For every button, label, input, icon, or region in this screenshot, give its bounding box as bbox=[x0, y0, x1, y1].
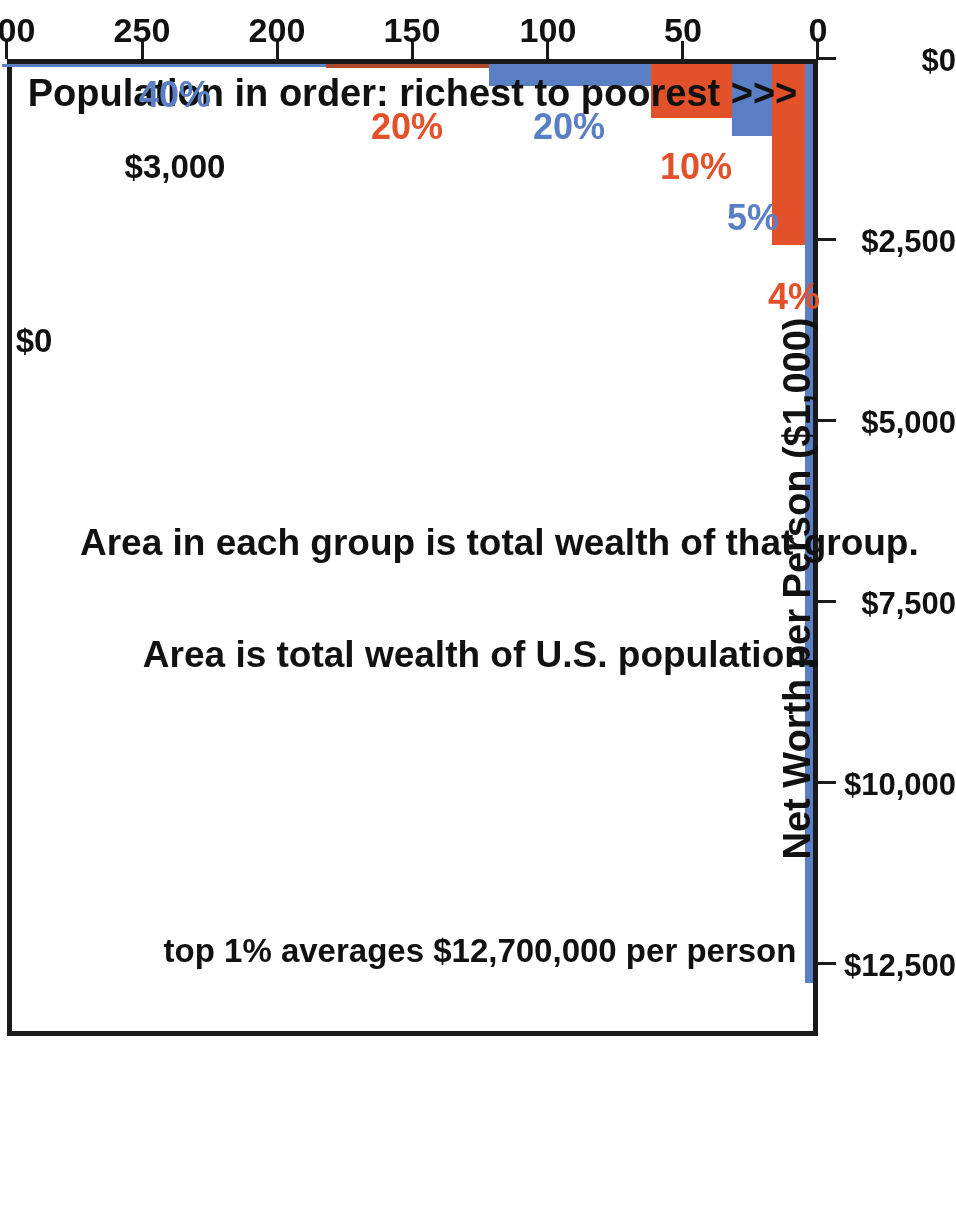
y-tick-label-3: $7,500 bbox=[844, 586, 956, 622]
y-tick-3 bbox=[818, 600, 836, 603]
bar-percent-label-1: 4% bbox=[749, 276, 839, 318]
y-tick-label-2: $5,000 bbox=[844, 405, 956, 441]
bar-percent-label-5: 20% bbox=[362, 106, 452, 148]
x-tick-label-300: 300 bbox=[0, 11, 52, 50]
top-one-percent-note: top 1% averages $12,700,000 per person bbox=[80, 932, 880, 970]
remainder-value: $0 bbox=[0, 322, 124, 360]
y-tick-2 bbox=[818, 419, 836, 422]
bar-20pct-5 bbox=[326, 64, 488, 68]
y-tick-label-0: $0 bbox=[844, 43, 956, 79]
rotated-figure-wrapper: 050100150200250300 Population in order: … bbox=[0, 0, 956, 1210]
bar-percent-label-4: 20% bbox=[524, 106, 614, 148]
y-axis-title: Net Worth per Person ($1,000) bbox=[776, 100, 819, 1077]
area-total-wealth-note: Area is total wealth of U.S. population. bbox=[80, 634, 880, 676]
y-tick-1 bbox=[818, 238, 836, 241]
y-tick-4 bbox=[818, 781, 836, 784]
y-tick-label-4: $10,000 bbox=[844, 767, 956, 803]
y-tick-0 bbox=[818, 58, 836, 61]
bar-40pct-6 bbox=[2, 64, 326, 67]
area-group-wealth-note: Area in each group is total wealth of th… bbox=[80, 522, 880, 564]
forty-percent-value: $3,000 bbox=[85, 148, 265, 186]
y-tick-label-1: $2,500 bbox=[844, 224, 956, 260]
x-tick-label-100: 100 bbox=[503, 11, 593, 50]
bar-percent-label-6: 40% bbox=[130, 74, 220, 116]
bar-percent-label-2: 5% bbox=[708, 197, 798, 239]
x-tick-label-50: 50 bbox=[638, 11, 728, 50]
chart-figure: 050100150200250300 Population in order: … bbox=[0, 0, 956, 1210]
x-tick-label-150: 150 bbox=[368, 11, 458, 50]
x-tick-label-200: 200 bbox=[232, 11, 322, 50]
bar-percent-label-3: 10% bbox=[651, 146, 741, 188]
x-tick-label-250: 250 bbox=[97, 11, 187, 50]
